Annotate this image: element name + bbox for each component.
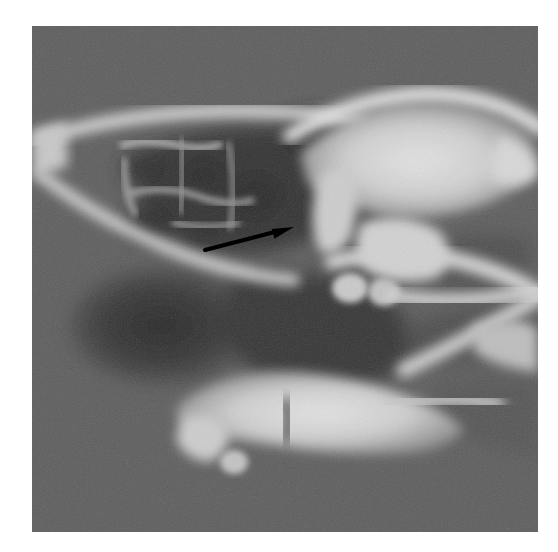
ct-scan-canvas [32,26,538,532]
screenshot-page [0,0,558,552]
film-grain [32,26,538,532]
ct-scan-image [32,26,538,532]
